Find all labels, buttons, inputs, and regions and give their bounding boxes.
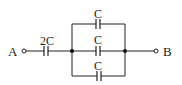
- terminal-b: [154, 49, 158, 53]
- terminal-a-label: A: [8, 44, 18, 59]
- junction-left: [70, 49, 74, 53]
- terminal-b-label: B: [163, 44, 172, 59]
- capacitor-2c-label: 2C: [40, 34, 54, 48]
- capacitor-top-label: C: [94, 7, 102, 21]
- terminal-a: [22, 49, 26, 53]
- capacitor-middle-label: C: [94, 33, 102, 47]
- capacitor-middle: [96, 46, 100, 56]
- capacitor-bottom-label: C: [94, 59, 102, 73]
- circuit-diagram: A 2C C C C B: [0, 0, 182, 85]
